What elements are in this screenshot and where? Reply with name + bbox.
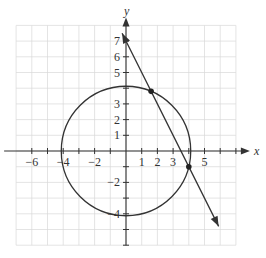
x-tick-label: −6 [25, 155, 38, 169]
x-tick-label: −2 [88, 155, 101, 169]
tick-labels: −6−4−21235765321−2−4 [25, 34, 207, 221]
arrowheads [122, 17, 250, 226]
x-tick-label: 3 [170, 155, 176, 169]
y-tick-label: 1 [114, 128, 120, 142]
intersection-point [186, 164, 192, 170]
coordinate-plane: −6−4−21235765321−2−4 x y [0, 0, 266, 258]
y-tick-label: −2 [107, 175, 120, 189]
y-axis-arrow-icon [123, 17, 130, 26]
y-axis-label: y [123, 4, 130, 18]
x-axis-label: x [253, 144, 260, 158]
x-tick-label: 5 [202, 155, 208, 169]
y-tick-label: 7 [114, 34, 120, 48]
x-tick-label: 1 [139, 155, 145, 169]
x-tick-label: 2 [154, 155, 160, 169]
y-tick-label: 2 [114, 113, 120, 127]
y-tick-label: 6 [114, 50, 120, 64]
y-tick-label: 5 [114, 66, 120, 80]
y-tick-label: 3 [114, 97, 120, 111]
ticks [32, 41, 236, 245]
x-axis-arrow-icon [241, 148, 250, 155]
line-arrow-end-icon [211, 216, 219, 227]
intersection-point [148, 89, 154, 95]
